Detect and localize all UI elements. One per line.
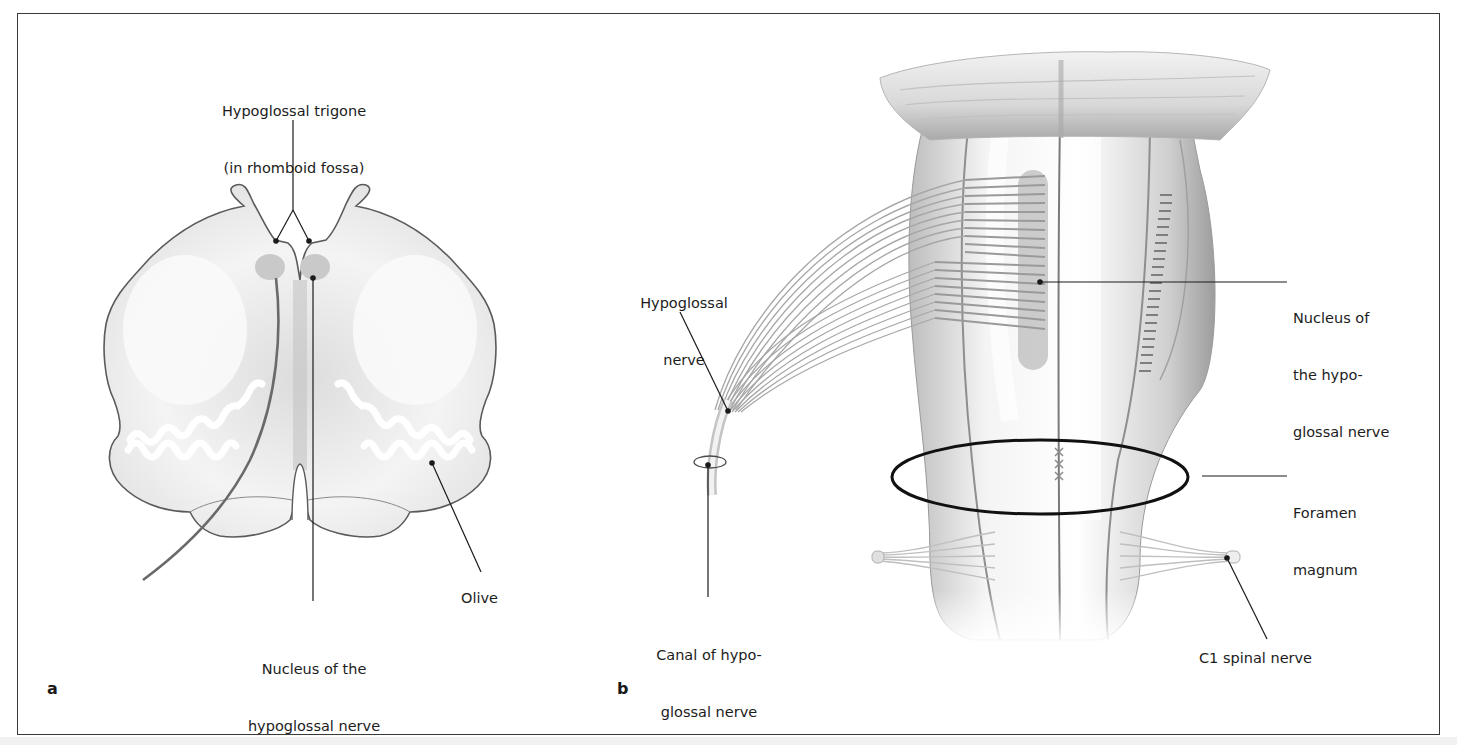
label-line: nerve (616, 351, 752, 370)
label-nucleus-hypoglossal-b: Nucleus of the hypo- glossal nerve (1293, 271, 1389, 461)
label-olive: Olive (461, 589, 498, 608)
label-line: hypoglossal nerve (216, 717, 412, 736)
label-line: magnum (1293, 561, 1358, 580)
label-c1-spinal-nerve: C1 spinal nerve (1199, 649, 1312, 668)
panel-letter-b: b (617, 679, 628, 698)
label-line: Nucleus of (1293, 309, 1389, 328)
label-line: glossal nerve (636, 703, 782, 722)
label-hypoglossal-trigone: Hypoglossal trigone (in rhomboid fossa) (198, 64, 390, 197)
label-canal-hypoglossal: Canal of hypo- glossal nerve (636, 608, 782, 741)
label-line: Canal of hypo- (636, 646, 782, 665)
brainstem-anterior-view (694, 52, 1270, 645)
label-line: glossal nerve (1293, 423, 1389, 442)
label-foramen-magnum: Foramen magnum (1293, 466, 1358, 599)
label-line: Foramen (1293, 504, 1358, 523)
label-line: the hypo- (1293, 366, 1389, 385)
label-hypoglossal-nerve: Hypoglossal nerve (616, 256, 752, 389)
label-line: Hypoglossal (616, 294, 752, 313)
panel-letter-a: a (47, 679, 58, 698)
label-line: Hypoglossal trigone (198, 102, 390, 121)
label-nucleus-hypoglossal-a: Nucleus of the hypoglossal nerve (216, 622, 412, 745)
label-line: Nucleus of the (216, 660, 412, 679)
label-line: (in rhomboid fossa) (198, 159, 390, 178)
medulla-cross-section (104, 184, 496, 580)
